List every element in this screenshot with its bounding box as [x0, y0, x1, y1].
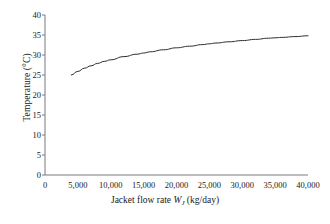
series-line [71, 36, 308, 75]
y-tick-label: 30 [20, 51, 41, 60]
chart-figure: Temperature (°C) 0510152025303540 05,000… [0, 0, 330, 224]
x-tick-label: 25,000 [198, 181, 221, 190]
y-tick-label: 10 [20, 131, 41, 140]
plot-canvas [0, 0, 330, 224]
x-tick-label: 15,000 [132, 181, 155, 190]
x-axis-units: (kg/day) [184, 195, 219, 205]
x-tick-label: 20,000 [165, 181, 188, 190]
y-tick-label: 15 [20, 111, 41, 120]
axes [42, 15, 308, 175]
x-tick-label: 5,000 [68, 181, 87, 190]
x-tick-label: 0 [43, 181, 47, 190]
data-series [71, 36, 308, 75]
y-tick-label: 0 [20, 171, 41, 180]
y-tick-label: 20 [20, 91, 41, 100]
x-tick-label: 35,000 [263, 181, 286, 190]
x-tick-label: 40,000 [296, 181, 319, 190]
y-tick-label: 35 [20, 31, 41, 40]
x-axis-title-prefix: Jacket flow rate [111, 195, 174, 205]
y-tick-label: 5 [20, 151, 41, 160]
axis-spines [45, 15, 308, 175]
y-tick-label: 40 [20, 11, 41, 20]
x-axis-title: Jacket flow rate WJ (kg/day) [0, 195, 330, 207]
x-tick-label: 10,000 [99, 181, 122, 190]
x-tick-label: 30,000 [231, 181, 254, 190]
y-tick-label: 25 [20, 71, 41, 80]
